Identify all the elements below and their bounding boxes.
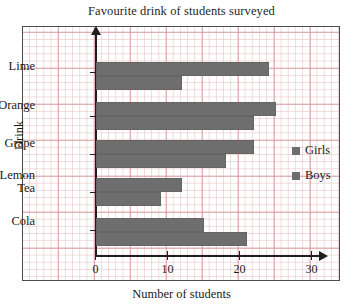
legend-swatch-girls-icon xyxy=(292,147,300,155)
chart-title: Favourite drink of students surveyed xyxy=(0,4,363,19)
y-axis-title: Drink xyxy=(12,121,27,150)
x-axis-line xyxy=(95,255,319,257)
category-label-lemon-line2: Tea xyxy=(0,182,35,195)
bar-lime-boys xyxy=(96,76,182,90)
x-tick-label-10: 10 xyxy=(162,262,174,277)
legend-label-boys: Boys xyxy=(305,168,331,183)
category-label-lemon-line1: Lemon xyxy=(0,169,35,182)
category-label-lime: Lime xyxy=(9,60,35,73)
x-tick-label-30: 30 xyxy=(306,262,318,277)
chart-legend: Girls Boys xyxy=(292,143,331,193)
bar-cola-boys xyxy=(96,232,247,246)
category-label-lemon-tea: Lemon Tea xyxy=(0,169,35,194)
x-tick-10 xyxy=(167,251,168,260)
category-label-cola: Cola xyxy=(11,215,35,228)
bar-cola-girls xyxy=(96,218,204,232)
bar-lime-girls xyxy=(96,62,269,76)
bar-orange-girls xyxy=(96,102,276,116)
y-axis-arrow-icon xyxy=(91,26,101,35)
bar-grape-girls xyxy=(96,140,254,154)
legend-item-boys[interactable]: Boys xyxy=(292,168,331,183)
bar-orange-boys xyxy=(96,116,254,130)
bar-lemon-tea-boys xyxy=(96,192,161,206)
bar-grape-boys xyxy=(96,154,226,168)
bar-lemon-tea-girls xyxy=(96,178,182,192)
category-label-orange: Orange xyxy=(0,99,35,112)
chart-figure: Favourite drink of students surveyed 0 1… xyxy=(0,0,363,307)
x-tick-30 xyxy=(311,251,312,260)
x-tick-0 xyxy=(95,251,96,260)
x-tick-label-0: 0 xyxy=(93,262,99,277)
legend-item-girls[interactable]: Girls xyxy=(292,143,331,158)
x-tick-20 xyxy=(239,251,240,260)
x-axis-arrow-icon xyxy=(319,251,328,261)
x-axis-title: Number of students xyxy=(0,287,363,302)
legend-label-girls: Girls xyxy=(305,143,330,158)
x-tick-label-20: 20 xyxy=(234,262,246,277)
legend-swatch-boys-icon xyxy=(292,172,300,180)
